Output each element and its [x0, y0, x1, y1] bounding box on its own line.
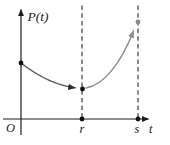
- point-initial-value: [19, 61, 24, 66]
- curve-decreasing-segment: [21, 63, 75, 88]
- tick-label-r: r: [80, 122, 85, 136]
- point-endpoint-at-s: [136, 20, 141, 25]
- tick-label-s: s: [135, 122, 140, 136]
- y-axis-label: P(t): [27, 9, 49, 24]
- origin-label: O: [6, 121, 15, 135]
- function-graph: P(t) O r s t: [0, 0, 170, 145]
- x-axis-label: t: [149, 122, 153, 136]
- point-minimum-at-r: [80, 87, 85, 92]
- function-graph-canvas: P(t) O r s t: [0, 0, 170, 145]
- curve-increasing-segment: [86, 31, 134, 88]
